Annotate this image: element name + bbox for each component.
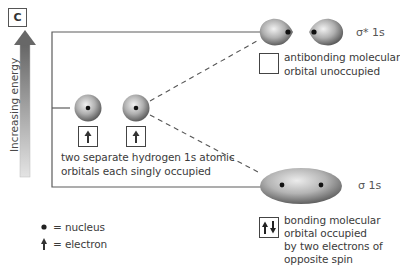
nucleus-dot <box>134 106 139 111</box>
electron-pair-icon <box>260 218 278 237</box>
bonding-description-line1: bonding molecular <box>284 213 380 227</box>
antibonding-description-line2: orbital unoccupied <box>284 64 380 78</box>
electron-box-antibonding <box>259 53 279 74</box>
electron-up-icon <box>79 127 97 146</box>
nucleus-dot <box>86 106 91 111</box>
bonding-description-line2: orbital occupied <box>284 226 367 240</box>
electron-box-bonding <box>259 217 279 238</box>
legend-nucleus-label: = nucleus <box>53 220 105 234</box>
antibonding-symbol: σ* 1s <box>356 26 385 39</box>
legend-nucleus-icon <box>41 224 46 229</box>
atomic-orbital-2 <box>123 95 150 122</box>
electron-box-atom-2 <box>126 126 146 147</box>
bonding-orbital <box>260 168 342 204</box>
atomic-description-line2: orbitals each singly occupied <box>61 164 211 178</box>
nucleus-dot <box>319 183 324 188</box>
nucleus-dot <box>285 29 290 34</box>
bonding-description-line3: by two electrons of <box>284 239 383 253</box>
axis-label: Increasing energy <box>8 58 20 152</box>
electron-up-icon <box>127 127 145 146</box>
bonding-description-line4: opposite spin <box>284 252 353 266</box>
antibonding-description-line1: antibonding molecular <box>284 50 400 64</box>
nucleus-dot <box>280 183 285 188</box>
legend-electron-icon <box>41 238 47 250</box>
electron-box-atom-1 <box>78 126 98 147</box>
atomic-description-line1: two separate hydrogen 1s atomic <box>61 150 235 164</box>
antibonding-orbital <box>260 19 343 46</box>
nucleus-dot <box>311 29 316 34</box>
bonding-symbol: σ 1s <box>358 179 381 192</box>
legend-electron-label: = electron <box>53 237 107 251</box>
atomic-orbital-1 <box>75 95 102 122</box>
